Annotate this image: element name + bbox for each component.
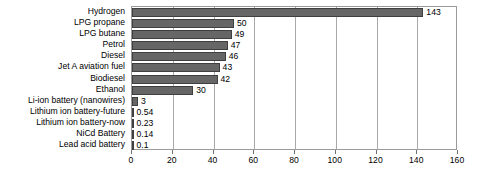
bar-row: 143 [132,7,458,18]
x-tick-mark [131,150,132,154]
bar-value-label: 143 [426,7,440,18]
category-label: Jet A aviation fuel [58,61,125,72]
category-label: Lithium ion battery-future [30,106,125,117]
bar-row: 3 [132,96,458,107]
category-label: NiCd Battery [76,128,125,139]
bar-value-label: 0.54 [137,107,154,118]
x-tick-mark [376,150,377,154]
bar [132,30,232,39]
x-tick-mark [416,150,417,154]
category-label: LPG propane [74,17,125,28]
bar-row: 49 [132,29,458,40]
category-label: Petrol [103,39,125,50]
bar-value-label: 0.23 [137,118,154,129]
bar-row: 46 [132,51,458,62]
bar [132,108,134,117]
x-tick-mark [294,150,295,154]
x-tick-label: 160 [450,155,464,165]
plot-area: 1435049474643423030.540.230.140.1 [131,6,457,150]
category-label: Diesel [101,50,125,61]
category-label: LPG butane [79,28,125,39]
bar-value-label: 43 [223,62,233,73]
x-tick-label: 60 [248,155,258,165]
bar [132,130,134,139]
category-axis-labels: HydrogenLPG propaneLPG butanePetrolDiese… [0,6,128,150]
x-tick-mark [172,150,173,154]
x-tick-label: 0 [129,155,134,165]
bar-value-label: 42 [221,74,231,85]
x-tick-label: 100 [328,155,342,165]
bar [132,97,138,106]
bar-value-label: 3 [141,96,146,107]
bar-row: 43 [132,62,458,73]
bar-value-label: 49 [235,29,245,40]
bars-layer: 1435049474643423030.540.230.140.1 [132,7,456,149]
category-label: Ethanol [96,84,125,95]
x-tick-mark [335,150,336,154]
bar [132,86,193,95]
bar-value-label: 47 [231,40,241,51]
x-tick-label: 20 [167,155,177,165]
bar-value-label: 0.14 [137,129,154,140]
bar [132,75,218,84]
bar [132,41,228,50]
bar [132,141,134,150]
bar-row: 0.23 [132,118,458,129]
bar-row: 47 [132,40,458,51]
bar-value-label: 46 [229,51,239,62]
x-tick-mark [213,150,214,154]
bar-row: 0.54 [132,107,458,118]
x-tick-label: 120 [368,155,382,165]
bar [132,52,226,61]
x-tick-mark [457,150,458,154]
bar-row: 30 [132,85,458,96]
bar-value-label: 30 [196,85,206,96]
bar-row: 42 [132,74,458,85]
bar [132,8,423,17]
bar-row: 50 [132,18,458,29]
x-tick-mark [253,150,254,154]
bar [132,63,220,72]
bar-row: 0.14 [132,129,458,140]
category-label: Biodiesel [90,73,125,84]
x-tick-label: 140 [409,155,423,165]
bar-value-label: 50 [237,18,247,29]
bar [132,119,134,128]
category-label: Lithium ion battery-now [36,117,125,128]
bar [132,19,234,28]
category-label: Lead acid battery [59,139,125,150]
x-axis: 020406080100120140160 [131,150,457,170]
bar-chart: HydrogenLPG propaneLPG butanePetrolDiese… [0,0,482,185]
category-label: Hydrogen [88,6,125,17]
category-label: Li-ion battery (nanowires) [28,95,125,106]
x-tick-label: 80 [289,155,299,165]
x-tick-label: 40 [208,155,218,165]
